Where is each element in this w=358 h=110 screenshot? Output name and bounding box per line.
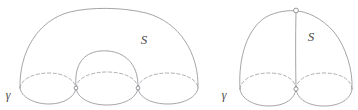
right-disk-1-front-arc [240,89,296,106]
right-diagram-group: S γ [222,8,352,106]
right-disk-2-back-arc [296,73,352,89]
left-disk-2-front-arc [76,88,138,105]
right-surface-label: S [308,29,315,44]
right-bottom-pinch-node [294,87,298,91]
left-disk-1-back-arc [20,73,76,88]
left-pinch-node-1 [74,86,78,90]
left-outer-dome-arc [20,8,198,88]
left-disk-2-back-arc [76,72,138,88]
right-dome-right-arc [296,11,352,89]
left-disk-3-back-arc [138,73,198,88]
left-disk-1-front-arc [20,88,76,104]
left-surface-label: S [141,32,148,47]
right-dome-left-arc [240,11,296,89]
left-pinch-node-2 [136,86,140,90]
right-disk-2-front-arc [296,89,352,106]
right-top-node [294,8,299,13]
right-disk-1-back-arc [240,73,296,89]
left-inner-dome-arc [76,51,138,88]
surface-diagram-figure: S γ S γ [0,0,358,110]
left-diagram-group: S γ [6,8,198,105]
right-boundary-label: γ [222,88,227,102]
left-disk-3-front-arc [138,88,198,104]
left-boundary-label: γ [6,88,11,102]
